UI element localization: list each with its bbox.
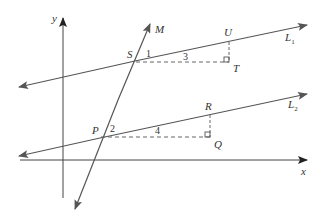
- line-L1-label: L1: [284, 31, 295, 46]
- angle-4-label: 4: [155, 125, 160, 136]
- line-L2: [100, 94, 307, 138]
- line-M-label: M: [154, 23, 165, 35]
- line-L2-label: L2: [287, 98, 298, 113]
- line-L1-letter: L: [284, 31, 291, 43]
- line-M-lower: [75, 100, 118, 209]
- angle-2-label: 2: [110, 123, 115, 134]
- line-L1-left: [19, 61, 135, 87]
- point-R-label: R: [204, 100, 212, 112]
- point-S-label: S: [127, 48, 133, 60]
- x-axis-label: x: [300, 165, 306, 177]
- point-Q-label: Q: [214, 138, 222, 150]
- right-angle-marker-Q: [205, 132, 210, 137]
- y-axis-label: y: [51, 12, 57, 24]
- point-T-label: T: [233, 62, 240, 74]
- right-angle-marker-T: [224, 57, 229, 62]
- line-L2-subscript: 2: [294, 105, 298, 113]
- line-L2-left: [19, 138, 100, 156]
- point-P-label: P: [91, 124, 99, 136]
- parallel-lines-diagram: y x M L1 L2 S U T P R Q 1 3 2 4: [0, 0, 323, 213]
- line-L1-subscript: 1: [291, 38, 295, 46]
- angle-1-label: 1: [146, 48, 151, 59]
- point-U-label: U: [224, 26, 233, 38]
- line-L2-letter: L: [287, 98, 294, 110]
- angle-3-label: 3: [183, 51, 188, 62]
